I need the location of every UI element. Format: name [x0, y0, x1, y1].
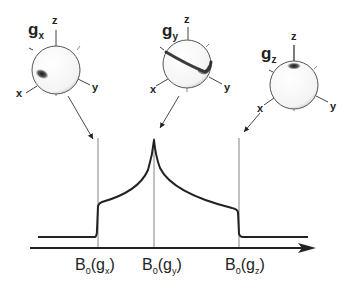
- pointer-arrow-gx: [68, 96, 93, 139]
- x-label: x: [16, 87, 23, 99]
- sphere-gy: gy z x y: [150, 13, 231, 95]
- z-label: z: [184, 13, 190, 25]
- sphere-gx: gx z x y: [16, 14, 99, 99]
- y-label: y: [330, 100, 337, 112]
- pointer-arrow-gy: [160, 96, 179, 128]
- y-label: y: [224, 81, 231, 93]
- x-axis-line: [26, 86, 37, 93]
- y-label: y: [92, 81, 99, 93]
- y-axis-line: [209, 77, 222, 84]
- tick: [29, 48, 33, 50]
- sphere-gz: gz z x y: [257, 30, 337, 114]
- x-label: x: [150, 83, 157, 95]
- tick: [269, 70, 273, 72]
- z-label: z: [291, 30, 297, 42]
- x-label: x: [257, 102, 264, 114]
- field-label-gx: B0(gx): [75, 256, 115, 276]
- y-axis-line: [78, 79, 90, 85]
- tick: [314, 66, 317, 69]
- x-axis-line: [264, 98, 274, 105]
- g-label: gz: [261, 44, 276, 65]
- tick: [77, 46, 80, 50]
- tick: [160, 47, 164, 50]
- g-label: gy: [162, 21, 178, 42]
- pointer-arrow-gz: [244, 113, 260, 132]
- tick: [206, 44, 209, 47]
- x-axis-line: [156, 79, 168, 86]
- y-axis-line: [316, 96, 328, 102]
- z-label: z: [52, 14, 58, 26]
- epr-diagram: gx z x y gy z x y gz z x y: [0, 0, 353, 291]
- field-label-gz: B0(gz): [225, 256, 265, 276]
- resonance-region: [287, 63, 301, 70]
- powder-spectrum-curve: [38, 140, 308, 237]
- field-label-gy: B0(gy): [142, 256, 182, 276]
- g-label: gx: [28, 20, 44, 41]
